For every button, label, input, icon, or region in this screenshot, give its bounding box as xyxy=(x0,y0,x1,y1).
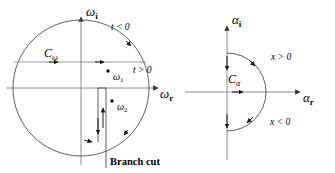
figure-container: ωi ωr Cω t < 0 t > 0 ω1 ω2 Branch cut αi… xyxy=(0,0,335,173)
alpha-real-axis-label: αr xyxy=(303,91,314,107)
omega-region-label-t-positive: t > 0 xyxy=(133,66,152,76)
pole-omega2-label: ω2 xyxy=(117,102,127,114)
omega-arrow-lower-left xyxy=(84,140,92,142)
omega-real-axis-label: ωr xyxy=(160,87,173,103)
omega-contour-label: Cω xyxy=(44,47,58,62)
omega-region-label-t-negative: t < 0 xyxy=(111,23,130,33)
alpha-region-label-x-positive: x > 0 xyxy=(271,53,291,63)
alpha-arrow-upper-arc xyxy=(249,60,255,66)
omega-imaginary-axis-label: ωi xyxy=(86,5,98,21)
omega-arrow-lower-right xyxy=(124,130,128,135)
pole-omega2-marker xyxy=(110,99,113,102)
branch-cut-label: Branch cut xyxy=(110,157,160,168)
alpha-plane-group xyxy=(185,26,300,160)
alpha-contour-label: Cα xyxy=(228,73,240,88)
alpha-imaginary-axis-label: αi xyxy=(232,13,241,29)
pole-omega1-label: ω1 xyxy=(113,72,123,84)
alpha-region-label-x-negative: x < 0 xyxy=(270,118,290,128)
omega-plane-group xyxy=(6,17,158,168)
pole-omega1-marker xyxy=(106,69,109,72)
